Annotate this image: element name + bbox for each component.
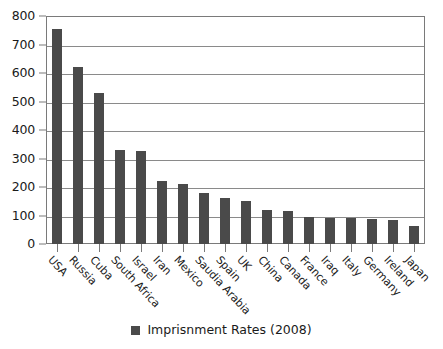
x-tick-mark: [330, 244, 331, 252]
bar: [199, 193, 209, 244]
bar: [94, 93, 104, 244]
y-tick-mark: [39, 73, 46, 74]
bar: [388, 220, 398, 244]
x-tick-mark: [78, 244, 79, 252]
y-tick-mark: [39, 130, 46, 131]
bar: [283, 211, 293, 244]
x-tick-mark: [99, 244, 100, 252]
bar: [325, 218, 335, 245]
y-tick-label: 800: [12, 10, 35, 23]
x-tick-mark: [204, 244, 205, 252]
x-tick-label: Italy: [340, 254, 364, 279]
x-tick-mark: [393, 244, 394, 252]
bar: [241, 201, 251, 244]
bar: [409, 226, 419, 244]
bar-chart: 0100200300400500600700800 USARussiaCubaS…: [0, 0, 443, 349]
legend-label: Imprisnment Rates (2008): [147, 324, 311, 337]
bar: [367, 219, 377, 244]
y-tick-mark: [39, 101, 46, 102]
bar: [52, 29, 62, 244]
bar: [115, 150, 125, 244]
y-tick-label: 500: [12, 95, 35, 108]
bar: [220, 198, 230, 244]
y-tick-label: 100: [12, 209, 35, 222]
x-tick-mark: [225, 244, 226, 252]
x-axis-ticks: [46, 244, 425, 253]
bar: [73, 67, 83, 244]
x-axis-labels: USARussiaCubaSouth AfricaIsraelIranMexic…: [46, 254, 425, 316]
x-tick-mark: [183, 244, 184, 252]
x-tick-mark: [414, 244, 415, 252]
x-tick-mark: [141, 244, 142, 252]
y-tick-mark: [39, 16, 46, 17]
x-tick-mark: [309, 244, 310, 252]
bar: [304, 217, 314, 244]
y-tick-label: 300: [12, 152, 35, 165]
bar: [136, 151, 146, 244]
x-tick-mark: [246, 244, 247, 252]
bar: [346, 218, 356, 244]
x-tick-mark: [120, 244, 121, 252]
bar: [262, 210, 272, 244]
y-axis: 0100200300400500600700800: [0, 0, 46, 260]
y-tick-mark: [39, 244, 46, 245]
y-tick-mark: [39, 187, 46, 188]
x-tick-mark: [351, 244, 352, 252]
bar: [178, 184, 188, 244]
bars-group: [46, 16, 425, 244]
y-tick-label: 200: [12, 181, 35, 194]
y-tick-mark: [39, 215, 46, 216]
x-tick-mark: [57, 244, 58, 252]
x-tick-mark: [267, 244, 268, 252]
y-tick-label: 0: [27, 238, 35, 251]
legend: Imprisnment Rates (2008): [0, 324, 443, 337]
y-tick-mark: [39, 44, 46, 45]
legend-swatch-icon: [131, 326, 140, 335]
x-tick-mark: [162, 244, 163, 252]
y-tick-label: 400: [12, 124, 35, 137]
x-tick-mark: [372, 244, 373, 252]
y-tick-label: 700: [12, 38, 35, 51]
y-tick-mark: [39, 158, 46, 159]
bar: [157, 181, 167, 244]
x-tick-label: USA: [45, 254, 68, 278]
x-tick-mark: [288, 244, 289, 252]
y-tick-label: 600: [12, 67, 35, 80]
